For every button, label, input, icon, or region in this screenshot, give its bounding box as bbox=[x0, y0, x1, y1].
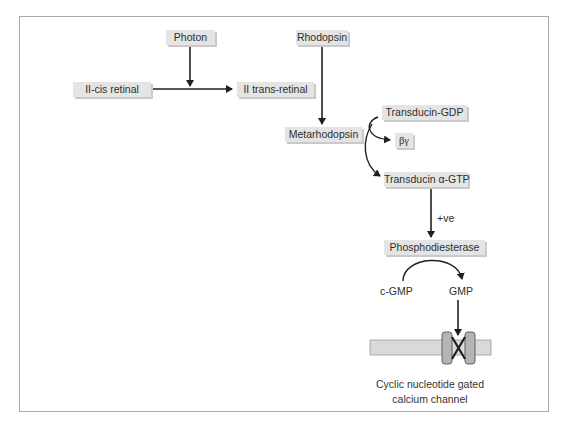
node-trans-retinal: II trans-retinal bbox=[237, 82, 314, 97]
channel-caption: Cyclic nucleotide gated calcium channel bbox=[360, 377, 500, 407]
node-phosphodiesterase: Phosphodiesterase bbox=[384, 240, 485, 255]
node-photon: Photon bbox=[166, 30, 215, 45]
arrow-to-transducin-gtp bbox=[365, 124, 380, 176]
channel-subunit-right bbox=[465, 332, 475, 364]
channel-caption-line1: Cyclic nucleotide gated bbox=[360, 377, 500, 392]
node-beta-gamma: βγ bbox=[395, 133, 413, 148]
node-transducin-gdp: Transducin-GDP bbox=[382, 105, 467, 120]
node-rhodopsin: Rhodopsin bbox=[296, 30, 348, 45]
node-transducin-gtp: Transducin α-GTP bbox=[384, 172, 468, 187]
connector-layer bbox=[0, 0, 564, 430]
node-metarhodopsin: Metarhodopsin bbox=[285, 127, 362, 142]
node-cgmp: c-GMP bbox=[380, 285, 413, 297]
channel-subunit-left bbox=[442, 332, 452, 364]
arrow-cgmp-to-gmp bbox=[403, 260, 462, 281]
channel-caption-line2: calcium channel bbox=[360, 392, 500, 407]
arrow-transducin-gdp-to-betagamma bbox=[369, 117, 390, 140]
edge-label-positive: +ve bbox=[437, 212, 454, 224]
node-cis-retinal: II-cis retinal bbox=[73, 82, 151, 97]
node-gmp: GMP bbox=[449, 285, 473, 297]
